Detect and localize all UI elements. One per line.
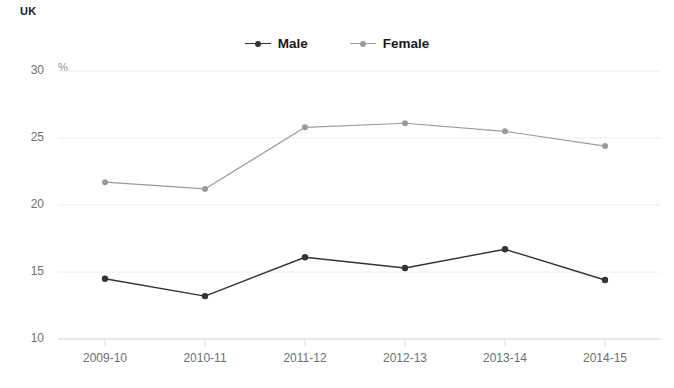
data-point-female-2013-14[interactable] bbox=[502, 128, 508, 134]
y-axis-tick-label: 10 bbox=[10, 331, 44, 345]
data-point-female-2009-10[interactable] bbox=[102, 179, 108, 185]
x-axis-tick-label: 2009-10 bbox=[50, 351, 160, 365]
chart-container: UK Male Female % 1015202530 2009-102010-… bbox=[0, 0, 674, 388]
x-axis-tick-label: 2012-13 bbox=[350, 351, 460, 365]
x-axis-tick-label: 2010-11 bbox=[150, 351, 260, 365]
data-point-female-2014-15[interactable] bbox=[602, 143, 608, 149]
x-axis-tick-label: 2013-14 bbox=[450, 351, 560, 365]
y-axis-tick-label: 15 bbox=[10, 264, 44, 278]
x-axis-tick-label: 2011-12 bbox=[250, 351, 360, 365]
data-point-male-2011-12[interactable] bbox=[302, 254, 308, 260]
data-point-male-2010-11[interactable] bbox=[202, 293, 208, 299]
data-point-male-2009-10[interactable] bbox=[102, 276, 108, 282]
y-axis-tick-label: 20 bbox=[10, 197, 44, 211]
data-point-female-2011-12[interactable] bbox=[302, 124, 308, 130]
series-line-male bbox=[105, 249, 605, 296]
series-line-female bbox=[105, 123, 605, 189]
y-axis-tick-label: 30 bbox=[10, 63, 44, 77]
plot-area bbox=[0, 0, 674, 388]
data-point-male-2012-13[interactable] bbox=[402, 265, 408, 271]
data-point-female-2012-13[interactable] bbox=[402, 120, 408, 126]
data-point-male-2014-15[interactable] bbox=[602, 277, 608, 283]
data-point-female-2010-11[interactable] bbox=[202, 186, 208, 192]
x-axis-tick-label: 2014-15 bbox=[550, 351, 660, 365]
data-point-male-2013-14[interactable] bbox=[502, 246, 508, 252]
y-axis-tick-label: 25 bbox=[10, 130, 44, 144]
